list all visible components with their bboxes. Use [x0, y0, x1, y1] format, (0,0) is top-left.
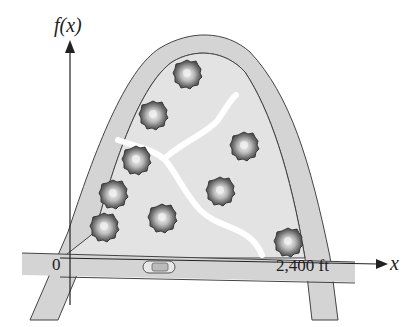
- park-diagram: [0, 0, 420, 327]
- distance-label: 2,400 ft: [276, 256, 329, 276]
- y-axis-label: f(x): [54, 14, 82, 37]
- x-axis-label: x: [390, 252, 399, 275]
- car-icon: [143, 261, 175, 273]
- origin-label: 0: [52, 255, 61, 275]
